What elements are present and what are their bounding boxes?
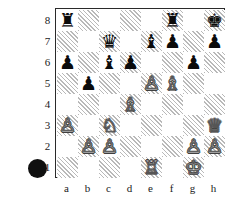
square-a3[interactable]: ♙ (57, 115, 78, 136)
square-c3[interactable]: ♘ (99, 115, 120, 136)
square-h7[interactable]: ♟ (204, 31, 225, 52)
square-f6[interactable] (162, 52, 183, 73)
square-h6[interactable] (204, 52, 225, 73)
piece-glyph: ♛ (101, 32, 118, 51)
square-g2[interactable]: ♙ (183, 136, 204, 157)
piece-glyph: ♙ (143, 74, 160, 93)
piece-white-knight-c3[interactable]: ♘ (99, 115, 120, 136)
square-e1[interactable]: ♖ (141, 157, 162, 178)
rank-label-3: 3 (41, 114, 54, 135)
square-g6[interactable]: ♟ (183, 52, 204, 73)
piece-black-rook-a8[interactable]: ♜ (57, 10, 78, 31)
square-e5[interactable]: ♙ (141, 73, 162, 94)
square-d8[interactable] (120, 10, 141, 31)
square-d3[interactable] (120, 115, 141, 136)
square-b3[interactable] (78, 115, 99, 136)
square-d4[interactable]: ♗ (120, 94, 141, 115)
square-c7[interactable]: ♛ (99, 31, 120, 52)
piece-black-rook-f8[interactable]: ♜ (162, 10, 183, 31)
piece-black-pawn-a6[interactable]: ♟ (57, 52, 78, 73)
piece-white-bishop-f5[interactable]: ♗ (162, 73, 183, 94)
piece-white-rook-e1[interactable]: ♖ (141, 157, 162, 178)
square-f3[interactable] (162, 115, 183, 136)
square-b1[interactable] (78, 157, 99, 178)
square-b6[interactable] (78, 52, 99, 73)
square-c2[interactable]: ♙ (99, 136, 120, 157)
square-a6[interactable]: ♟ (57, 52, 78, 73)
piece-black-pawn-b5[interactable]: ♟ (78, 73, 99, 94)
square-h4[interactable] (204, 94, 225, 115)
square-b2[interactable]: ♙ (78, 136, 99, 157)
piece-glyph: ♘ (101, 116, 118, 135)
piece-glyph: ♟ (122, 53, 139, 72)
piece-white-pawn-b2[interactable]: ♙ (78, 136, 99, 157)
square-f1[interactable] (162, 157, 183, 178)
square-c4[interactable] (99, 94, 120, 115)
square-c8[interactable] (99, 10, 120, 31)
square-g4[interactable] (183, 94, 204, 115)
square-d7[interactable] (120, 31, 141, 52)
piece-black-bishop-c6[interactable]: ♝ (99, 52, 120, 73)
square-a2[interactable] (57, 136, 78, 157)
square-e7[interactable]: ♝ (141, 31, 162, 52)
square-d1[interactable] (120, 157, 141, 178)
square-h5[interactable] (204, 73, 225, 94)
square-f5[interactable]: ♗ (162, 73, 183, 94)
square-d2[interactable] (120, 136, 141, 157)
piece-black-king-h8[interactable]: ♚ (204, 10, 225, 31)
square-a8[interactable]: ♜ (57, 10, 78, 31)
square-b5[interactable]: ♟ (78, 73, 99, 94)
piece-white-king-g1[interactable]: ♔ (183, 157, 204, 178)
square-f8[interactable]: ♜ (162, 10, 183, 31)
square-e3[interactable] (141, 115, 162, 136)
piece-white-bishop-d4[interactable]: ♗ (120, 94, 141, 115)
piece-black-pawn-d6[interactable]: ♟ (120, 52, 141, 73)
piece-white-pawn-c2[interactable]: ♙ (99, 136, 120, 157)
square-h8[interactable]: ♚ (204, 10, 225, 31)
square-a1[interactable] (57, 157, 78, 178)
square-d6[interactable]: ♟ (120, 52, 141, 73)
square-g7[interactable] (183, 31, 204, 52)
square-g8[interactable] (183, 10, 204, 31)
square-g5[interactable] (183, 73, 204, 94)
square-h1[interactable] (204, 157, 225, 178)
square-d5[interactable] (120, 73, 141, 94)
square-c6[interactable]: ♝ (99, 52, 120, 73)
piece-white-queen-h3[interactable]: ♕ (204, 115, 225, 136)
square-b4[interactable] (78, 94, 99, 115)
piece-black-pawn-h7[interactable]: ♟ (204, 31, 225, 52)
square-a4[interactable] (57, 94, 78, 115)
square-c5[interactable] (99, 73, 120, 94)
piece-glyph: ♙ (185, 137, 202, 156)
piece-white-pawn-a3[interactable]: ♙ (57, 115, 78, 136)
square-h3[interactable]: ♕ (204, 115, 225, 136)
chessboard-grid[interactable]: ♜♜♚♛♝♟♟♟♝♟♟♟♙♗♗♙♘♕♙♙♙♙♖♔ (57, 10, 225, 178)
piece-black-pawn-f7[interactable]: ♟ (162, 31, 183, 52)
piece-black-queen-c7[interactable]: ♛ (99, 31, 120, 52)
square-c1[interactable] (99, 157, 120, 178)
square-f4[interactable] (162, 94, 183, 115)
square-e2[interactable] (141, 136, 162, 157)
square-e6[interactable] (141, 52, 162, 73)
file-label-g: g (182, 180, 203, 196)
square-h2[interactable]: ♙ (204, 136, 225, 157)
file-label-e: e (140, 180, 161, 196)
piece-white-pawn-h2[interactable]: ♙ (204, 136, 225, 157)
piece-black-pawn-g6[interactable]: ♟ (183, 52, 204, 73)
square-b7[interactable] (78, 31, 99, 52)
chessboard[interactable]: ♜♜♚♛♝♟♟♟♝♟♟♟♙♗♗♙♘♕♙♙♙♙♖♔ (55, 8, 225, 178)
piece-glyph: ♝ (143, 32, 160, 51)
square-a5[interactable] (57, 73, 78, 94)
piece-white-pawn-g2[interactable]: ♙ (183, 136, 204, 157)
square-a7[interactable] (57, 31, 78, 52)
square-e8[interactable] (141, 10, 162, 31)
piece-white-pawn-e5[interactable]: ♙ (141, 73, 162, 94)
piece-glyph: ♟ (164, 32, 181, 51)
piece-black-bishop-e7[interactable]: ♝ (141, 31, 162, 52)
square-g1[interactable]: ♔ (183, 157, 204, 178)
square-b8[interactable] (78, 10, 99, 31)
square-f7[interactable]: ♟ (162, 31, 183, 52)
square-g3[interactable] (183, 115, 204, 136)
square-e4[interactable] (141, 94, 162, 115)
square-f2[interactable] (162, 136, 183, 157)
